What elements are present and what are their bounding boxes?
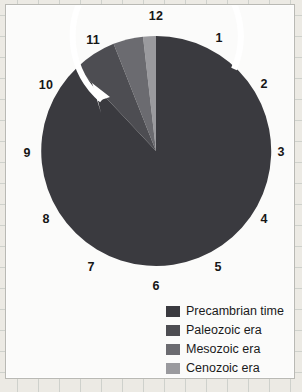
legend-label-cenozoic-era: Cenozoic era — [186, 362, 260, 375]
clock-numeral-11: 11 — [86, 34, 100, 47]
legend-item-paleozoic-era: Paleozoic era — [166, 321, 292, 340]
geologic-time-clock-figure: 12 1 2 3 4 5 6 7 8 9 10 11 Precambrian t… — [6, 5, 294, 378]
legend-swatch-paleozoic-era — [166, 325, 180, 336]
clock-numeral-4: 4 — [260, 213, 267, 226]
clock-numeral-10: 10 — [39, 79, 53, 92]
clock-numeral-9: 9 — [23, 147, 30, 160]
legend-item-precambrian-time: Precambrian time — [166, 302, 292, 321]
pie-wedges — [41, 36, 271, 266]
legend-swatch-mesozoic-era — [166, 344, 180, 355]
clock-numeral-1: 1 — [215, 32, 222, 45]
clock-numeral-6: 6 — [152, 280, 159, 293]
legend-label-precambrian-time: Precambrian time — [186, 305, 284, 318]
clock-numeral-8: 8 — [42, 213, 49, 226]
legend-label-mesozoic-era: Mesozoic era — [186, 343, 260, 356]
legend-item-cenozoic-era: Cenozoic era — [166, 359, 292, 378]
legend: Precambrian time Paleozoic era Mesozoic … — [166, 302, 292, 378]
legend-swatch-precambrian-time — [166, 306, 180, 317]
clock-numeral-3: 3 — [277, 146, 284, 159]
legend-swatch-cenozoic-era — [166, 363, 180, 374]
figure-card: 12 1 2 3 4 5 6 7 8 9 10 11 Precambrian t… — [5, 4, 295, 379]
clock-numeral-12: 12 — [149, 10, 163, 23]
wedge-precambrian-time — [41, 36, 271, 266]
legend-item-mesozoic-era: Mesozoic era — [166, 340, 292, 359]
clock-numeral-7: 7 — [87, 261, 94, 274]
legend-label-paleozoic-era: Paleozoic era — [186, 324, 262, 337]
clock-numeral-5: 5 — [214, 261, 221, 274]
clock-numeral-2: 2 — [260, 78, 267, 91]
